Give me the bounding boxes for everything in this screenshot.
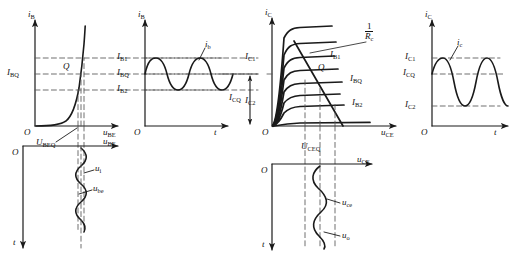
input-characteristic-curve	[36, 26, 85, 126]
panel4-y-axis-label: iC	[425, 10, 432, 19]
panel6-origin-label: O	[261, 166, 268, 175]
panel4-ic2-label: IC2	[405, 100, 415, 109]
panel1-ibq-label: IBQ	[7, 68, 19, 77]
panel6-y-axis-label: t	[262, 240, 265, 249]
figure-canvas: iB uBE O IBQ Q UBEQ iB t O IB1 IBQ IB2 i…	[0, 0, 517, 259]
panel4-ic-signal-label: ic	[457, 38, 462, 47]
panel6-uce-label: uce	[342, 198, 352, 207]
panel1-y-axis-label: iB	[28, 10, 35, 19]
panel5-ui-label: ui	[95, 164, 101, 173]
figure-vector	[0, 0, 517, 259]
panel2-ib1-label: IB1	[117, 52, 127, 61]
panel3-curve-ib1-label: IB1	[330, 50, 340, 59]
icq-dimension-label: ICQ	[229, 93, 241, 102]
panel5-origin-label: O	[12, 148, 19, 157]
panel3-q-point-label: Q	[318, 63, 325, 72]
ui-leader	[84, 170, 94, 173]
panel2-ib-signal-label: ib	[205, 40, 211, 49]
panel-input-characteristic-axes	[35, 20, 118, 126]
panel6-x-axis-label: uCE	[357, 155, 370, 164]
panel6-uo-label: uo	[342, 231, 350, 240]
panel2-x-axis-label: t	[214, 128, 217, 137]
panel5-ube-label: ube	[93, 184, 104, 193]
panel2-y-axis-label: iB	[138, 10, 145, 19]
panel3-ic2-label: IC2	[245, 96, 255, 105]
collector-current-sine	[432, 58, 508, 106]
panel2-ib2-label: IB2	[117, 84, 127, 93]
panel2-ibq-label: IBQ	[117, 68, 129, 77]
panel4-ic1-label: IC1	[405, 52, 415, 61]
panel6-uceq-label: UCEQ	[301, 142, 320, 151]
uo-leader	[324, 232, 340, 236]
output-characteristic-curves	[273, 26, 344, 126]
panel-input-voltage-axes	[23, 146, 118, 248]
panel-base-current-axes	[145, 20, 228, 126]
panel4-x-axis-label: t	[494, 128, 497, 137]
panel1-q-point-label: Q	[63, 62, 70, 71]
panel5-y-axis-label: t	[13, 238, 16, 247]
panel3-x-axis-label: uCE	[381, 128, 394, 137]
panel1-origin-label: O	[24, 128, 31, 137]
ubeq-pointer	[56, 128, 77, 142]
panel3-y-axis-label: iC	[265, 8, 272, 17]
panel3-load-line-slope-label: 1 Rc	[365, 22, 373, 42]
panel3-origin-label: O	[262, 128, 269, 137]
uce-leader	[327, 199, 340, 203]
panel4-icq-label: ICQ	[403, 68, 415, 77]
panel4-origin-label: O	[421, 128, 428, 137]
panel5-x-axis-label: uBE	[103, 137, 116, 146]
panel1-ubeq-label: UBEQ	[36, 138, 55, 147]
panel3-curve-ib2-label: IB2	[352, 98, 362, 107]
panel3-curve-ibq-label: IBQ	[350, 74, 362, 83]
panel3-ic1-label: IC1	[245, 52, 255, 61]
panel-output-voltage-axes	[272, 164, 372, 250]
panel2-origin-label: O	[134, 128, 141, 137]
